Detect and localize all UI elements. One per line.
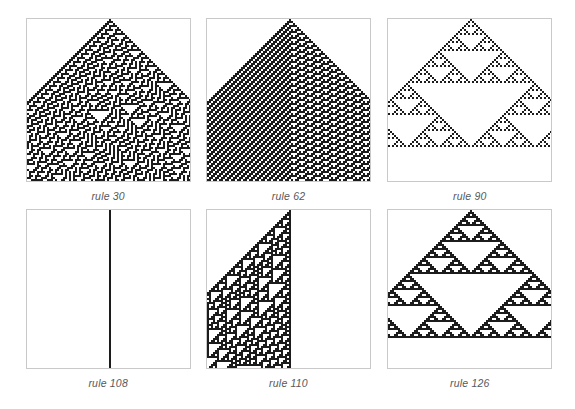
panel-rule-62: rule 62: [196, 18, 378, 209]
figure-root: rule 30 rule 62 rule 90 rule 108 rule 11: [0, 0, 575, 409]
panel-frame: [206, 18, 371, 182]
panel-frame: [387, 18, 552, 182]
panel-caption: rule 110: [269, 377, 308, 389]
ca-plot-rule-62: [207, 19, 370, 181]
panel-caption: rule 126: [450, 377, 490, 389]
ca-plot-rule-108: [27, 210, 190, 368]
panel-caption: rule 62: [272, 190, 306, 202]
panel-caption: rule 30: [91, 190, 125, 202]
panel-frame: [26, 209, 191, 369]
panel-caption: rule 108: [88, 377, 128, 389]
ca-plot-rule-126: [388, 210, 551, 368]
panel-frame: [387, 209, 552, 369]
panel-rule-90: rule 90: [379, 18, 561, 209]
ca-plot-rule-110: [207, 210, 370, 368]
panel-caption: rule 90: [453, 190, 487, 202]
panel-grid: rule 30 rule 62 rule 90 rule 108 rule 11: [0, 0, 575, 409]
ca-plot-rule-90: [388, 19, 551, 181]
panel-frame: [206, 209, 371, 369]
panel-rule-110: rule 110: [196, 209, 378, 400]
ca-plot-rule-30: [27, 19, 190, 181]
panel-rule-30: rule 30: [14, 18, 196, 209]
panel-rule-126: rule 126: [379, 209, 561, 400]
panel-rule-108: rule 108: [14, 209, 196, 400]
panel-frame: [26, 18, 191, 182]
